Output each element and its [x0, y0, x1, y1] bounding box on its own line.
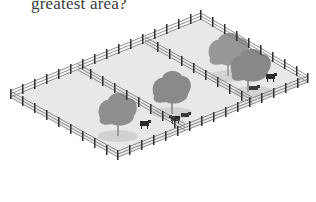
- pasture-illustration: [0, 0, 316, 202]
